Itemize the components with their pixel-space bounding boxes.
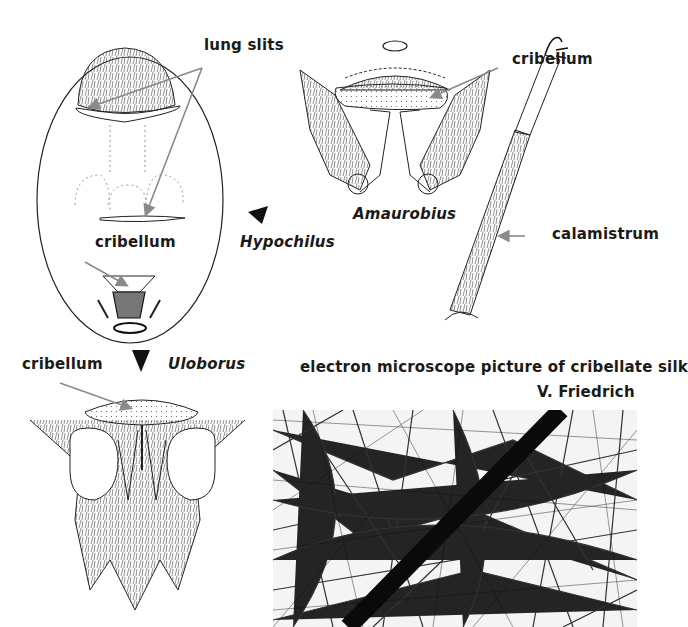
silk-micrograph-image	[273, 410, 637, 627]
uloborus-spinnerets-drawing	[30, 383, 245, 610]
taxon-amaurobius: Amaurobius	[353, 205, 456, 223]
silk-credit: V. Friedrich	[537, 383, 635, 401]
label-lung-slits: lung slits	[204, 36, 284, 54]
hypochilus-abdomen-drawing	[37, 48, 223, 343]
leg-calamistrum-drawing	[445, 38, 568, 321]
label-amaurobius-cribellum: cribellum	[512, 50, 593, 68]
amaurobius-spinnerets-drawing	[300, 41, 498, 194]
label-uloborus-cribellum: cribellum	[22, 355, 103, 373]
silk-fiber-network	[273, 410, 637, 627]
label-calamistrum: calamistrum	[552, 225, 659, 243]
hypochilus-pointer-triangle	[248, 206, 268, 224]
taxon-uloborus: Uloborus	[168, 355, 245, 373]
silk-caption: electron microscope picture of cribellat…	[300, 358, 688, 376]
label-hypochilus-cribellum: cribellum	[95, 233, 176, 251]
taxon-hypochilus: Hypochilus	[240, 233, 335, 251]
uloborus-pointer-triangle	[132, 350, 150, 372]
